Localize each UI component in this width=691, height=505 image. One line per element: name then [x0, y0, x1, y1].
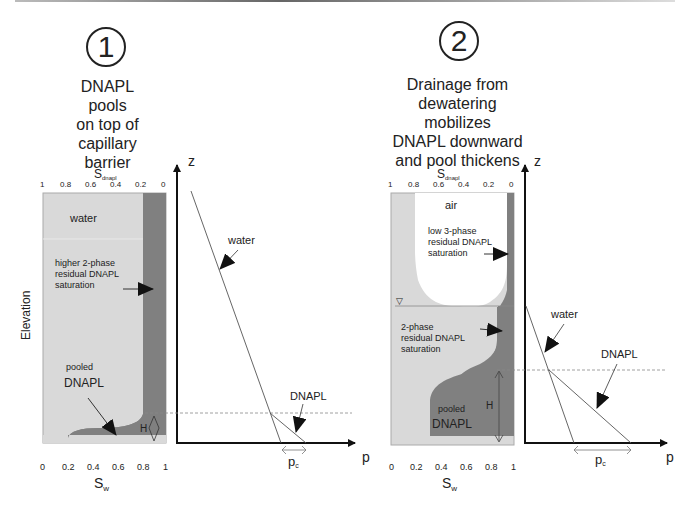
- dnapl-line-label: DNAPL: [601, 348, 638, 360]
- label-line: residual DNAPL: [428, 237, 492, 247]
- tick-label: 0.2: [483, 180, 495, 189]
- tick-label: 0.6: [460, 462, 473, 472]
- tick-label: 0.8: [137, 462, 150, 472]
- panel-1-top-axis: 1 0.8 0.6 0.4 0.2 0: [40, 180, 166, 189]
- pc-label: pc: [288, 454, 299, 469]
- tick-label: 0.4: [110, 180, 122, 189]
- pooled-dnapl-label: DNAPL: [64, 376, 104, 390]
- label-line: residual DNAPL: [401, 333, 465, 343]
- dnapl-arrow-icon: [597, 364, 617, 408]
- tick-label: 0: [509, 180, 514, 189]
- pooled-label: pooled: [438, 404, 465, 414]
- tick-label: 0.6: [85, 180, 97, 189]
- air-label: air: [445, 199, 458, 211]
- height-label: H: [140, 423, 147, 434]
- panel-2-bottom-axis-title: Sw: [442, 475, 457, 493]
- label-line: 2-phase: [401, 322, 434, 332]
- water-arrow-icon: [220, 250, 238, 269]
- tick-label: 1: [388, 180, 393, 189]
- pc-label: pc: [595, 452, 606, 467]
- panel-2-pressure-chart: [497, 165, 667, 454]
- tick-label: 1: [511, 462, 516, 472]
- panel-1-bottom-axis-title: Sw: [94, 475, 109, 493]
- p-axis-label: p: [666, 449, 674, 465]
- tick-label: 0.4: [435, 462, 448, 472]
- height-label: H: [486, 400, 493, 411]
- label-line: saturation: [428, 248, 468, 258]
- panel-1-bottom-axis: 0 0.2 0.4 0.6 0.8 1: [40, 462, 168, 472]
- z-axis-label: z: [534, 153, 541, 169]
- tick-label: 0.8: [408, 180, 420, 189]
- pooled-dnapl-label: DNAPL: [432, 417, 472, 431]
- panel-2-top-axis-title: Sdnapl: [437, 167, 460, 181]
- tick-label: 0.2: [135, 180, 147, 189]
- z-axis-label: z: [188, 153, 195, 169]
- pooled-label: pooled: [66, 362, 93, 372]
- tick-label: 0: [161, 180, 166, 189]
- dnapl-line-label: DNAPL: [290, 390, 327, 402]
- panel-1-top-axis-title: Sdnapl: [94, 167, 117, 181]
- panel-1-pressure-chart: [145, 165, 355, 454]
- tick-label: 0: [40, 462, 45, 472]
- water-line-label: water: [550, 308, 578, 320]
- label-line: higher 2-phase: [55, 258, 115, 268]
- elevation-label: Elevation: [19, 291, 33, 340]
- tick-label: 1: [40, 180, 45, 189]
- water-table-icon: ▽: [396, 296, 403, 306]
- tick-label: 1: [163, 462, 168, 472]
- tick-label: 0.4: [458, 180, 470, 189]
- tick-label: 0.6: [112, 462, 125, 472]
- tick-label: 0.8: [485, 462, 498, 472]
- dnapl-arrow-icon: [296, 404, 303, 432]
- label-line: residual DNAPL: [55, 269, 119, 279]
- diagram-canvas: 1 0.8 0.6 0.4 0.2 0 Sdnapl 0 0.2 0.4 0.6…: [0, 0, 691, 505]
- label-line: low 3-phase: [428, 226, 477, 236]
- label-line: saturation: [55, 280, 95, 290]
- tick-label: 0.2: [62, 462, 75, 472]
- tick-label: 0: [389, 462, 394, 472]
- panel-2-top-axis: 1 0.8 0.6 0.4 0.2 0: [388, 180, 514, 189]
- water-line-label: water: [227, 234, 255, 246]
- label-line: saturation: [401, 344, 441, 354]
- tick-label: 0.6: [433, 180, 445, 189]
- panel-1-saturation-column: [43, 193, 166, 443]
- water-arrow-icon: [545, 324, 564, 352]
- tick-label: 0.2: [410, 462, 423, 472]
- p-axis-label: p: [362, 449, 370, 465]
- panel-2-bottom-axis: 0 0.2 0.4 0.6 0.8 1: [389, 462, 516, 472]
- water-label: water: [69, 212, 97, 224]
- tick-label: 0.4: [87, 462, 100, 472]
- tick-label: 0.8: [60, 180, 72, 189]
